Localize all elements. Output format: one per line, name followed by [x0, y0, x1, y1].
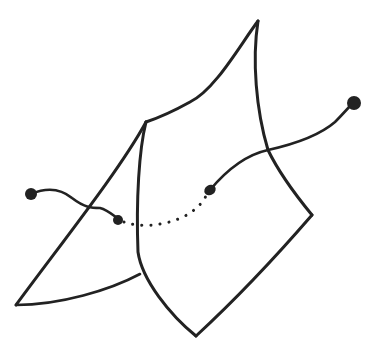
- surface: [16, 21, 312, 336]
- piercing-curve: [25, 96, 361, 225]
- front-fold-edge: [137, 122, 196, 336]
- right-endpoint-dot: [347, 96, 361, 110]
- back-sheet-right-edge: [255, 21, 312, 215]
- left-flap-diagonal-edge: [16, 122, 146, 305]
- entry-point-dot: [113, 215, 123, 225]
- curve-right-segment: [210, 104, 352, 190]
- bottom-right-edge: [196, 215, 312, 336]
- left-endpoint-dot: [25, 188, 37, 200]
- surface-curve-diagram: [0, 0, 376, 347]
- back-sheet-top-edge: [146, 21, 258, 122]
- curve-left-segment: [31, 190, 120, 220]
